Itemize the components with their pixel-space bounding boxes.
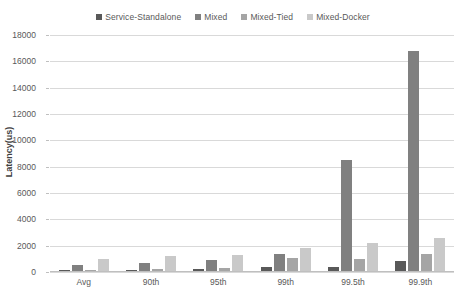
x-tick-label: 99th [252, 277, 319, 287]
y-tick-mark [46, 246, 49, 247]
legend-label: Mixed-Tied [250, 12, 293, 22]
bar[interactable] [165, 256, 176, 272]
legend-swatch-icon [241, 14, 247, 20]
x-tick-label: 99.5th [319, 277, 386, 287]
legend-entry-1[interactable]: Mixed [195, 12, 227, 22]
legend-entry-0[interactable]: Service-Standalone [96, 12, 181, 22]
legend-label: Mixed-Docker [316, 12, 370, 22]
plot-area: 0200040006000800010000120001400016000180… [50, 35, 454, 272]
y-tick-label: 12000 [0, 109, 36, 119]
legend-entry-3[interactable]: Mixed-Docker [307, 12, 370, 22]
bar-group-95th [185, 35, 252, 272]
y-tick-mark [46, 140, 49, 141]
bar[interactable] [408, 51, 419, 272]
bar-group-Avg [50, 35, 117, 272]
bar[interactable] [421, 254, 432, 272]
x-axis-line [50, 271, 454, 272]
y-tick-label: 18000 [0, 30, 36, 40]
bar-group-99.9th [387, 35, 454, 272]
legend-label: Service-Standalone [105, 12, 181, 22]
y-tick-label: 0 [0, 267, 36, 277]
y-tick-mark [46, 114, 49, 115]
x-axis-labels: Avg90th95th99th99.5th99.9th [50, 277, 454, 287]
legend-swatch-icon [195, 14, 201, 20]
bar[interactable] [232, 255, 243, 272]
y-tick-mark [46, 35, 49, 36]
bar-chart: Service-StandaloneMixedMixed-TiedMixed-D… [0, 0, 466, 304]
y-tick-label: 6000 [0, 188, 36, 198]
legend-swatch-icon [307, 14, 313, 20]
y-tick-mark [46, 219, 49, 220]
bar-group-90th [117, 35, 184, 272]
y-tick-mark [46, 61, 49, 62]
bar-group-99.5th [319, 35, 386, 272]
y-tick-label: 2000 [0, 241, 36, 251]
bar[interactable] [341, 160, 352, 272]
legend-swatch-icon [96, 14, 102, 20]
x-tick-label: Avg [50, 277, 117, 287]
y-tick-label: 8000 [0, 162, 36, 172]
x-tick-label: 95th [185, 277, 252, 287]
bar[interactable] [434, 238, 445, 272]
chart-legend: Service-StandaloneMixedMixed-TiedMixed-D… [0, 12, 466, 22]
legend-label: Mixed [204, 12, 227, 22]
x-tick-label: 99.9th [387, 277, 454, 287]
x-tick-label: 90th [117, 277, 184, 287]
bar[interactable] [274, 254, 285, 272]
y-tick-mark [46, 88, 49, 89]
y-axis-title: Latency(us) [2, 0, 16, 304]
bar-groups [50, 35, 454, 272]
legend-entry-2[interactable]: Mixed-Tied [241, 12, 293, 22]
y-tick-mark [46, 193, 49, 194]
y-tick-label: 14000 [0, 83, 36, 93]
y-tick-mark [46, 272, 49, 273]
bar[interactable] [287, 258, 298, 272]
y-tick-label: 10000 [0, 135, 36, 145]
bar[interactable] [300, 248, 311, 272]
bar[interactable] [367, 243, 378, 272]
bar-group-99th [252, 35, 319, 272]
y-tick-label: 16000 [0, 56, 36, 66]
gridline [50, 272, 454, 273]
y-tick-label: 4000 [0, 214, 36, 224]
y-tick-mark [46, 167, 49, 168]
